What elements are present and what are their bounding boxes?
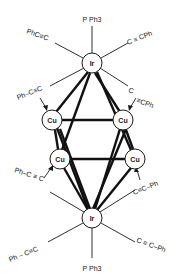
ligand-lower-left-bridge: Ph–C ≡ C <box>14 166 45 182</box>
ligand-upper-right-bridge-rest: ≡CPh <box>136 96 155 109</box>
ligand-upper-right-bridge-c: C <box>128 86 135 94</box>
ligand-upper-left-bridge: Ph–C≡C <box>16 84 43 100</box>
ligand-bottom-right: C ≡ C–Ph <box>136 236 167 253</box>
cu-lower-left-label: Cu <box>55 156 64 163</box>
ligand-top-pph3: P Ph3 <box>83 16 102 23</box>
cu-upper-right-label: Cu <box>118 117 127 124</box>
ligand-lower-right-bridge: C≡C–Ph <box>132 179 159 196</box>
bond-ir-bottom-left-alkynyl <box>48 223 83 242</box>
bond-ir-top-right-alkynyl <box>101 43 128 58</box>
bond-ir-bottom-right-alkynyl <box>101 223 135 242</box>
cu-lower-right-label: Cu <box>130 156 139 163</box>
ligand-bottom-left: Ph – C≡C <box>8 245 39 263</box>
ir-bottom-label: Ir <box>90 215 95 222</box>
cu-upper-left-label: Cu <box>47 117 56 124</box>
ligand-top-left: PhC≡C <box>26 27 50 41</box>
metal-metal-bonds <box>55 72 133 210</box>
ligand-top-right: C ≡ CPh <box>126 29 153 46</box>
cluster-diagram: Ir Ir Cu Cu Cu Cu P Ph3 PhC≡C C ≡ CPh Ph… <box>0 0 186 279</box>
ligand-bottom-pph3: P Ph3 <box>83 265 102 272</box>
ir-top-label: Ir <box>90 60 95 67</box>
bond-ir-top-right-lower-alkynyl <box>100 68 128 86</box>
bond-ir-top-left-alkynyl <box>55 43 83 58</box>
